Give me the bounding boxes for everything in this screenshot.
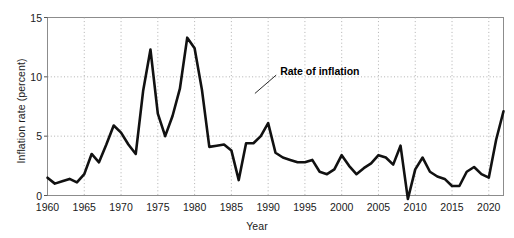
x-tick-label-1980: 1980 <box>183 201 206 213</box>
y-tick-label-5: 5 <box>20 130 42 142</box>
x-tick-label-2005: 2005 <box>367 201 390 213</box>
x-tick-label-1970: 1970 <box>109 201 132 213</box>
x-tick-label-1965: 1965 <box>73 201 96 213</box>
x-tick-label-1995: 1995 <box>293 201 316 213</box>
rate-of-inflation-annotation: Rate of inflation <box>280 65 359 77</box>
y-tick-label-0: 0 <box>20 190 42 202</box>
x-tick-label-1960: 1960 <box>36 201 59 213</box>
y-axis-title: Inflation rate (percent) <box>15 52 27 170</box>
x-axis-title: Year <box>0 220 514 232</box>
x-tick-label-2000: 2000 <box>330 201 353 213</box>
inflation-rate-chart-figure: Inflation rate (percent) Year 1960196519… <box>0 0 514 238</box>
x-tick-label-2010: 2010 <box>404 201 427 213</box>
y-tick-label-10: 10 <box>20 71 42 83</box>
y-tick-marks <box>44 18 48 196</box>
y-tick-label-15: 15 <box>20 12 42 24</box>
x-tick-label-2015: 2015 <box>440 201 463 213</box>
x-tick-label-2020: 2020 <box>477 201 500 213</box>
x-tick-label-1990: 1990 <box>256 201 279 213</box>
x-tick-label-1975: 1975 <box>146 201 169 213</box>
plot-area-frame <box>48 18 504 196</box>
x-tick-label-1985: 1985 <box>220 201 243 213</box>
